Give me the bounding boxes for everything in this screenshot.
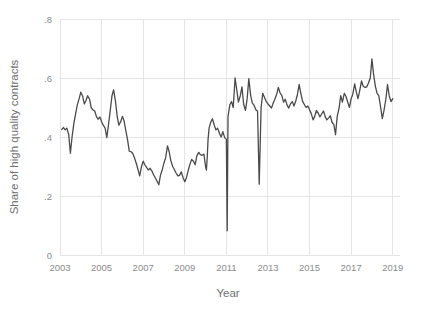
x-axis-title: Year xyxy=(216,287,239,299)
y-tick-label: .2 xyxy=(44,191,52,202)
x-axis-tick-labels: 200320052007200920112013201520172019 xyxy=(49,262,403,273)
x-tick-label: 2015 xyxy=(299,262,320,273)
x-tick-label: 2013 xyxy=(257,262,278,273)
x-tick-label: 2003 xyxy=(49,262,70,273)
y-tick-label: .6 xyxy=(44,73,52,84)
y-tick-label: .4 xyxy=(44,132,52,143)
line-chart: 0.2.4.6.8 200320052007200920112013201520… xyxy=(0,0,427,312)
y-axis-title: Share of high quality contracts xyxy=(8,59,20,214)
y-tick-label: .8 xyxy=(44,14,52,25)
y-tick-label: 0 xyxy=(47,250,52,261)
x-tick-label: 2017 xyxy=(341,262,362,273)
x-tick-label: 2009 xyxy=(174,262,195,273)
x-tick-label: 2007 xyxy=(133,262,154,273)
x-tick-label: 2011 xyxy=(216,262,236,273)
x-tick-label: 2005 xyxy=(91,262,112,273)
chart-container: 0.2.4.6.8 200320052007200920112013201520… xyxy=(0,0,427,312)
x-tick-label: 2019 xyxy=(382,262,403,273)
